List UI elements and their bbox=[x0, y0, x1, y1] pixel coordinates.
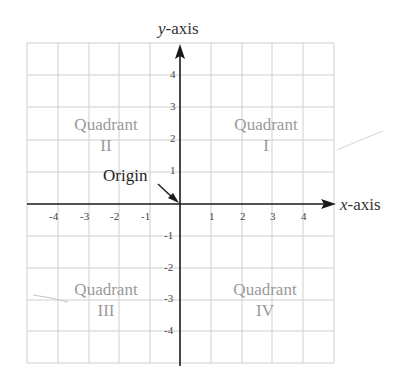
y-tick: -4 bbox=[164, 325, 173, 336]
y-tick: 4 bbox=[170, 69, 176, 80]
y-tick: 1 bbox=[170, 165, 176, 176]
quadrant-numeral: II bbox=[66, 137, 146, 154]
quadrant-numeral: IV bbox=[225, 302, 305, 319]
quadrant-numeral: I bbox=[226, 137, 306, 154]
x-tick: -3 bbox=[80, 211, 89, 222]
x-axis-label-suffix: -axis bbox=[348, 195, 381, 214]
y-tick: -2 bbox=[164, 262, 173, 273]
quadrant-iii-label: Quadrant III bbox=[66, 281, 146, 319]
quadrant-word: Quadrant bbox=[66, 116, 146, 133]
y-axis-label: y-axis bbox=[158, 20, 199, 37]
grid-and-axes bbox=[0, 0, 407, 388]
y-tick: -1 bbox=[164, 230, 173, 241]
y-axis-label-suffix: -axis bbox=[166, 19, 199, 38]
x-tick: 1 bbox=[209, 211, 215, 222]
x-variable: x bbox=[340, 195, 348, 214]
x-axis-label: x-axis bbox=[340, 196, 381, 213]
origin-label: Origin bbox=[103, 167, 147, 184]
stray-mark bbox=[33, 295, 68, 302]
quadrant-word: Quadrant bbox=[66, 281, 146, 298]
quadrant-i-label: Quadrant I bbox=[226, 116, 306, 154]
quadrant-word: Quadrant bbox=[225, 281, 305, 298]
y-tick: 3 bbox=[170, 101, 176, 112]
y-tick: -3 bbox=[164, 293, 173, 304]
y-variable: y bbox=[158, 19, 166, 38]
coordinate-plane: y-axis x-axis -4 -3 -2 -1 1 2 3 4 4 3 2 … bbox=[0, 0, 407, 388]
y-tick: 2 bbox=[170, 133, 176, 144]
x-tick: -1 bbox=[141, 211, 150, 222]
x-tick: 3 bbox=[270, 211, 276, 222]
x-tick: -4 bbox=[49, 211, 58, 222]
quadrant-ii-label: Quadrant II bbox=[66, 116, 146, 154]
stray-mark bbox=[337, 131, 383, 150]
quadrant-iv-label: Quadrant IV bbox=[225, 281, 305, 319]
quadrant-word: Quadrant bbox=[226, 116, 306, 133]
x-tick: 2 bbox=[240, 211, 246, 222]
quadrant-numeral: III bbox=[66, 302, 146, 319]
x-tick: -2 bbox=[110, 211, 119, 222]
x-tick: 4 bbox=[301, 211, 307, 222]
